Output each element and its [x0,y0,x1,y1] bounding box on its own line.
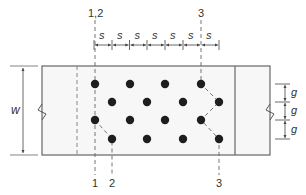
bolt-hole [161,80,169,88]
svg-text:s: s [117,29,123,41]
svg-text:s: s [99,29,105,41]
gage-labels: g g g [291,86,298,135]
bolt-hole [126,116,134,124]
bolt-hole [91,80,99,88]
svg-text:s: s [206,29,212,41]
svg-text:s: s [188,29,194,41]
gage-dimension [275,84,290,139]
bolt-hole [91,116,99,124]
label-section-3-bottom: 3 [216,177,222,189]
svg-text:g: g [291,123,298,135]
bolt-hole [108,135,116,143]
pitch-labels: s s s s s s s [99,29,212,41]
bolt-hole [197,116,205,124]
bolt-hole [143,135,151,143]
bolt-hole [143,98,151,106]
bolt-hole [197,80,205,88]
bolt-hole [215,135,223,143]
label-section-1-2: 1,2 [88,7,103,19]
plate [38,66,274,155]
staggered-bolt-diagram: w s s s s s s s g g g [0,0,306,195]
bolt-hole [179,135,187,143]
svg-text:s: s [135,29,141,41]
pitch-dimension [94,40,219,50]
width-label: w [11,103,21,117]
label-section-3-top: 3 [198,7,204,19]
bolt-hole [215,98,223,106]
svg-text:g: g [291,86,298,98]
bolt-hole [108,98,116,106]
label-section-2: 2 [109,177,115,189]
bolt-hole [126,80,134,88]
bolt-hole [161,116,169,124]
svg-text:s: s [152,29,158,41]
label-section-1: 1 [92,177,98,189]
bolt-hole [179,98,187,106]
svg-text:g: g [291,104,298,116]
svg-text:s: s [170,29,176,41]
